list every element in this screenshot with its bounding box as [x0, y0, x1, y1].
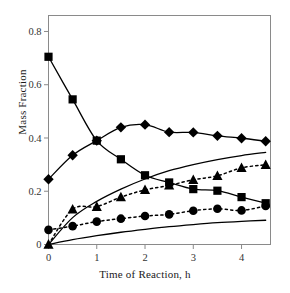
series-model-curve-upper	[49, 152, 266, 244]
data-point-marker	[165, 210, 174, 219]
data-point-marker	[68, 204, 78, 214]
data-point-marker	[116, 122, 126, 132]
data-point-marker	[260, 136, 270, 146]
data-point-marker	[188, 127, 198, 137]
y-tick-label: 0.2	[28, 186, 41, 197]
data-point-marker	[68, 222, 77, 231]
data-point-marker	[140, 185, 150, 195]
y-tick-label: 0.6	[28, 79, 41, 90]
y-tick-label: 0.4	[28, 133, 42, 144]
data-point-marker	[189, 185, 197, 193]
data-point-marker	[213, 187, 221, 195]
series-line	[49, 152, 266, 244]
data-point-marker	[188, 174, 198, 184]
data-point-marker	[117, 214, 126, 223]
data-point-marker	[164, 127, 174, 137]
data-point-marker	[236, 133, 246, 143]
series-line	[49, 165, 266, 245]
x-tick-label: 3	[191, 252, 196, 263]
data-point-marker	[44, 226, 53, 235]
chart-figure: Mass Fraction Time of Reaction, h 012340…	[0, 0, 290, 293]
data-point-marker	[237, 206, 246, 215]
data-point-marker	[117, 155, 125, 163]
data-point-marker	[212, 131, 222, 141]
series-line	[49, 57, 266, 203]
data-point-marker	[141, 212, 150, 221]
axis-ticks: 0123400.20.40.60.8	[28, 26, 245, 262]
y-axis-label: Mass Fraction	[16, 52, 28, 152]
series-squares	[44, 53, 269, 208]
data-point-marker	[69, 95, 77, 103]
data-series	[43, 53, 271, 249]
series-line	[49, 124, 266, 179]
data-point-marker	[189, 206, 198, 215]
y-tick-label: 0.8	[28, 26, 41, 37]
series-triangles	[43, 159, 270, 248]
data-point-marker	[92, 217, 101, 226]
plot-area: 0123400.20.40.60.8	[0, 0, 290, 293]
x-tick-label: 0	[46, 252, 51, 263]
x-tick-label: 1	[94, 252, 99, 263]
data-point-marker	[261, 159, 271, 169]
series-line	[49, 206, 266, 230]
data-point-marker	[213, 205, 222, 214]
x-tick-label: 4	[239, 252, 245, 263]
data-point-marker	[44, 53, 52, 61]
x-tick-label: 2	[142, 252, 147, 263]
data-point-marker	[261, 202, 270, 211]
data-point-marker	[140, 119, 150, 129]
data-point-marker	[237, 193, 245, 201]
y-tick-label: 0	[36, 239, 41, 250]
x-axis-label: Time of Reaction, h	[0, 268, 290, 280]
